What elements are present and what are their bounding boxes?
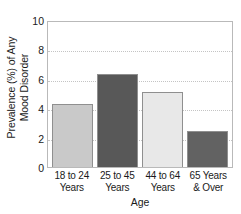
y-axis-tick-labels: 0246810	[22, 0, 44, 214]
y-axis-tick-10: 10	[28, 15, 44, 27]
bar-2	[142, 92, 183, 167]
y-axis-tick-2: 2	[28, 133, 44, 145]
x-axis-tick-3: 65 Years& Over	[186, 170, 232, 193]
x-axis-tick-1: 25 to 45Years	[95, 170, 141, 193]
bar-3	[187, 131, 228, 167]
bar-0	[52, 104, 93, 167]
y-axis-label-line-1: Prevalence (%) of Any	[6, 37, 19, 139]
x-axis-tick-2: 44 to 64Years	[140, 170, 186, 193]
bar-chart-figure: Prevalence (%) of Any Mood Disorder 0246…	[0, 0, 241, 214]
y-axis-tick-8: 8	[28, 44, 44, 56]
x-axis-tick-line: Years	[140, 182, 186, 194]
y-axis-tick-0: 0	[28, 162, 44, 174]
x-axis-tick-line: 18 to 24	[49, 170, 95, 182]
x-axis-tick-line: Years	[95, 182, 141, 194]
bar-slot-3	[185, 22, 230, 167]
x-axis-tick-line: 44 to 64	[140, 170, 186, 182]
bar-slot-2	[140, 22, 185, 167]
x-axis-label: Age	[47, 196, 233, 208]
y-axis-tick-6: 6	[28, 74, 44, 86]
bar-slot-1	[95, 22, 140, 167]
x-axis-tick-line: 25 to 45	[95, 170, 141, 182]
bar-1	[97, 74, 138, 167]
bar-slot-0	[50, 22, 95, 167]
x-axis-tick-labels: 18 to 24Years25 to 45Years44 to 64Years6…	[47, 170, 233, 193]
y-axis-tick-4: 4	[28, 103, 44, 115]
bar-series	[48, 22, 232, 167]
x-axis-tick-line: Years	[49, 182, 95, 194]
x-axis-tick-line: 65 Years	[186, 170, 232, 182]
x-axis-tick-line: & Over	[186, 182, 232, 194]
plot-area	[47, 21, 233, 168]
x-axis-tick-0: 18 to 24Years	[49, 170, 95, 193]
